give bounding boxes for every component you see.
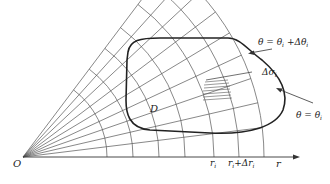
polar-ray [23,0,168,157]
delta-sigma-label: Δσi [261,67,277,78]
r-i-plus-delta-label: ri+Δri [228,158,255,169]
pointer-theta-lower [276,88,313,103]
theta-lower-label: θ = θi [296,110,322,121]
diagram-canvas: O D r ri ri+Δri θ = θi +Δθi Δσi θ = θi [0,0,330,184]
r-i-label: ri [210,158,216,169]
polar-ray [23,103,258,157]
origin-label: O [13,158,21,169]
area-element-hatch [203,80,232,100]
r-axis-label: r [276,158,282,169]
region-d-label: D [149,103,158,114]
r-axis-arrowhead [293,155,300,160]
polar-double-integral-diagram: O D r ri ri+Δri θ = θi +Δθi Δσi θ = θi [0,0,330,184]
pointer-theta-upper [248,49,272,55]
theta-upper-label: θ = θi +Δθi [258,37,308,48]
polar-ray [23,12,215,157]
polar-ray [23,128,262,157]
polar-ray [23,0,199,157]
polar-ray [23,79,251,157]
pointer-delta-sigma [206,72,252,80]
